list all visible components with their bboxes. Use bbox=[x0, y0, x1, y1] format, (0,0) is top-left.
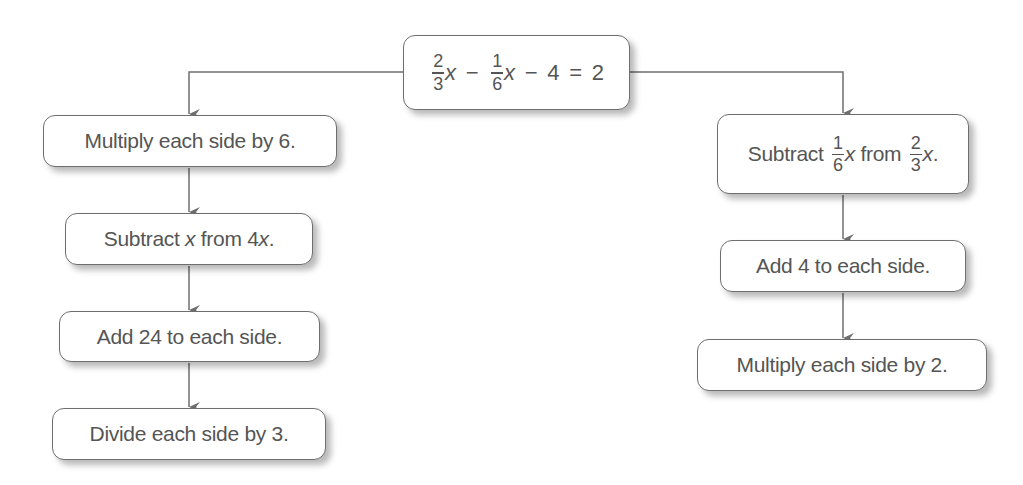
step-label: Multiply each side by 2. bbox=[736, 353, 947, 377]
right-step-2-box: Add 4 to each side. bbox=[720, 240, 966, 292]
step-label: Add 4 to each side. bbox=[756, 254, 930, 278]
left-step-3-box: Add 24 to each side. bbox=[59, 311, 320, 362]
connector-root-left bbox=[189, 72, 403, 114]
step-label: Add 24 to each side. bbox=[97, 325, 282, 349]
fraction-one-sixth: 1 6 bbox=[491, 52, 503, 92]
left-step-2-box: Subtract x from 4x. bbox=[65, 213, 313, 265]
fraction-two-thirds: 2 3 bbox=[910, 134, 922, 174]
step-label: Multiply each side by 6. bbox=[84, 129, 295, 153]
left-step-4-box: Divide each side by 3. bbox=[52, 408, 326, 460]
left-step-1-box: Multiply each side by 6. bbox=[43, 115, 337, 167]
fraction-two-thirds: 2 3 bbox=[432, 52, 444, 92]
root-equation-box: 2 3 x − 1 6 x − 4 = 2 bbox=[403, 35, 630, 110]
right-step-1-box: Subtract 1 6 x from 2 3 x. bbox=[717, 114, 969, 194]
right-step-3-box: Multiply each side by 2. bbox=[697, 339, 987, 391]
connector-root-right bbox=[630, 72, 843, 113]
step-label: Divide each side by 3. bbox=[90, 422, 289, 446]
fraction-one-sixth: 1 6 bbox=[832, 134, 844, 174]
